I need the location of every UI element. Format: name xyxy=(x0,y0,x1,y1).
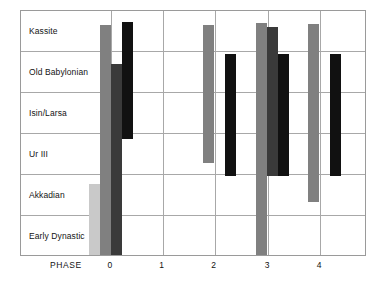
gridline-horizontal xyxy=(21,215,365,216)
plot-area: Kassite Old Babylonian Isin/Larsa Ur III… xyxy=(20,10,366,256)
bar-series-2-phase-4 xyxy=(308,24,319,202)
bar-series-4-phase-0 xyxy=(122,22,133,139)
bar-series-3-phase-3 xyxy=(267,27,278,175)
band-label-akkadian: Akkadian xyxy=(29,190,65,200)
x-tick-2: 2 xyxy=(211,260,216,270)
bar-series-1-phase-0 xyxy=(89,184,100,255)
gridline-vertical xyxy=(320,11,321,255)
x-axis: PHASE 0 1 2 3 4 xyxy=(20,258,366,278)
bar-series-2-phase-0 xyxy=(100,25,111,255)
bar-series-4-phase-3 xyxy=(278,54,289,176)
x-axis-title: PHASE xyxy=(50,260,82,270)
bar-series-4-phase-2 xyxy=(225,54,236,176)
band-label-old-babylonian: Old Babylonian xyxy=(29,67,88,77)
bar-series-3-phase-0 xyxy=(111,64,122,255)
gridline-vertical xyxy=(163,11,164,255)
bar-series-2-phase-2 xyxy=(203,25,214,163)
x-tick-3: 3 xyxy=(265,260,270,270)
band-label-early-dynastic: Early Dynastic xyxy=(29,231,85,241)
x-tick-4: 4 xyxy=(317,260,322,270)
bar-series-4-phase-4 xyxy=(330,54,341,176)
range-chart: Kassite Old Babylonian Isin/Larsa Ur III… xyxy=(0,0,387,285)
x-tick-0: 0 xyxy=(107,260,112,270)
gridline-vertical xyxy=(215,11,216,255)
x-tick-1: 1 xyxy=(159,260,164,270)
band-label-isin-larsa: Isin/Larsa xyxy=(29,108,67,118)
band-label-ur-iii: Ur III xyxy=(29,149,48,159)
band-label-kassite: Kassite xyxy=(29,26,58,36)
bar-series-2-phase-3 xyxy=(256,23,267,255)
